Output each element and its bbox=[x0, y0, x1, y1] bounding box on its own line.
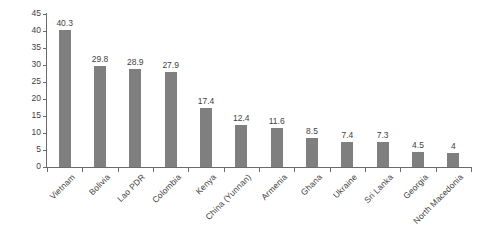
x-category-label: Ukraine bbox=[331, 172, 359, 200]
bar-value-label: 4 bbox=[451, 141, 456, 151]
x-category-label: Colombia bbox=[150, 172, 183, 205]
y-tick-label: 40 bbox=[32, 25, 41, 35]
x-tick-mark bbox=[330, 168, 331, 172]
bar[interactable] bbox=[59, 30, 71, 167]
y-tick-label: 35 bbox=[32, 42, 41, 52]
x-tick-mark bbox=[118, 168, 119, 172]
y-tick-mark bbox=[43, 116, 47, 117]
x-tick-mark bbox=[259, 168, 260, 172]
x-tick-mark bbox=[471, 168, 472, 172]
bar[interactable] bbox=[129, 69, 141, 167]
x-category-label: Vietnam bbox=[47, 172, 77, 202]
bar-value-label: 11.6 bbox=[269, 116, 285, 126]
x-tick-mark bbox=[400, 168, 401, 172]
y-tick-label: 5 bbox=[36, 144, 41, 154]
y-tick-mark bbox=[43, 133, 47, 134]
y-tick-mark bbox=[43, 48, 47, 49]
bar-value-label: 12.4 bbox=[233, 113, 250, 123]
y-tick-label: 10 bbox=[32, 127, 41, 137]
x-tick-mark bbox=[82, 168, 83, 172]
bar-value-label: 40.3 bbox=[56, 18, 73, 28]
x-category-label: Georgia bbox=[401, 172, 430, 201]
y-tick-label: 15 bbox=[32, 110, 41, 120]
bar[interactable] bbox=[165, 72, 177, 167]
x-category-label: Armenia bbox=[259, 172, 289, 202]
bar-value-label: 27.9 bbox=[162, 60, 179, 70]
y-tick-mark bbox=[43, 31, 47, 32]
x-tick-mark bbox=[294, 168, 295, 172]
y-tick-label: 0 bbox=[36, 161, 41, 171]
bar-chart: Share of respondents (%) 051015202530354… bbox=[0, 0, 488, 232]
bar-value-label: 7.3 bbox=[377, 130, 389, 140]
bar[interactable] bbox=[341, 142, 353, 167]
x-tick-mark bbox=[365, 168, 366, 172]
x-tick-mark bbox=[47, 168, 48, 172]
bar-value-label: 17.4 bbox=[198, 96, 215, 106]
y-tick-mark bbox=[43, 14, 47, 15]
bar-value-label: 29.8 bbox=[92, 54, 109, 64]
x-tick-mark bbox=[153, 168, 154, 172]
x-category-label: Ghana bbox=[299, 172, 324, 197]
x-tick-mark bbox=[224, 168, 225, 172]
bar[interactable] bbox=[412, 152, 424, 167]
bar[interactable] bbox=[306, 138, 318, 167]
x-category-label: Kenya bbox=[194, 172, 218, 196]
bar[interactable] bbox=[447, 153, 459, 167]
bar-value-label: 28.9 bbox=[127, 57, 144, 67]
y-tick-label: 25 bbox=[32, 76, 41, 86]
x-category-label: Lao PDR bbox=[115, 172, 147, 204]
y-tick-mark bbox=[43, 99, 47, 100]
bar[interactable] bbox=[271, 128, 283, 167]
bar-value-label: 4.5 bbox=[412, 140, 424, 150]
bar[interactable] bbox=[377, 142, 389, 167]
y-tick-mark bbox=[43, 150, 47, 151]
x-tick-mark bbox=[188, 168, 189, 172]
bar-value-label: 7.4 bbox=[341, 130, 353, 140]
x-tick-mark bbox=[436, 168, 437, 172]
x-category-label: Sri Lanka bbox=[362, 172, 395, 205]
y-tick-label: 30 bbox=[32, 59, 41, 69]
y-tick-mark bbox=[43, 82, 47, 83]
y-tick-mark bbox=[43, 65, 47, 66]
bar[interactable] bbox=[94, 66, 106, 167]
bar[interactable] bbox=[200, 108, 212, 167]
plot-area: 05101520253035404540.329.828.927.917.412… bbox=[47, 14, 471, 167]
y-tick-label: 20 bbox=[32, 93, 41, 103]
y-tick-label: 45 bbox=[32, 8, 41, 18]
x-category-label: Bolivia bbox=[87, 172, 112, 197]
bar-value-label: 8.5 bbox=[306, 126, 318, 136]
bar[interactable] bbox=[235, 125, 247, 167]
